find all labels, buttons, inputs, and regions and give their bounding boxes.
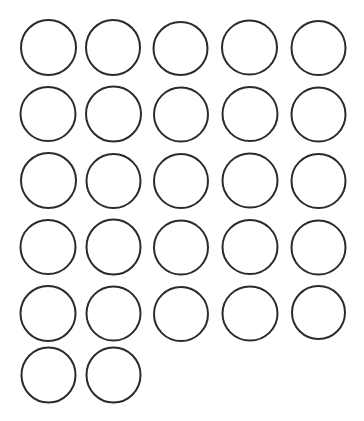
circle-r2-c4[interactable] bbox=[223, 87, 278, 141]
circle-r1-c4[interactable] bbox=[222, 21, 277, 75]
circle-r1-c5[interactable] bbox=[292, 21, 346, 75]
circle-r5-c2[interactable] bbox=[87, 287, 141, 341]
circle-layer bbox=[21, 20, 346, 403]
circle-r4-c5[interactable] bbox=[292, 221, 346, 275]
circle-r3-c3[interactable] bbox=[154, 154, 208, 208]
circle-grid-canvas bbox=[0, 0, 364, 421]
circle-r6-c2[interactable] bbox=[87, 348, 141, 403]
circle-r5-c1[interactable] bbox=[21, 286, 76, 341]
circle-r5-c5[interactable] bbox=[292, 286, 345, 339]
circle-r4-c3[interactable] bbox=[154, 221, 208, 275]
circle-r2-c1[interactable] bbox=[21, 87, 76, 141]
circle-r4-c1[interactable] bbox=[21, 220, 76, 274]
circle-r4-c4[interactable] bbox=[223, 220, 278, 274]
circle-r3-c4[interactable] bbox=[223, 154, 278, 208]
circle-r5-c4[interactable] bbox=[223, 287, 278, 341]
circle-r4-c2[interactable] bbox=[87, 220, 141, 275]
circle-grid-svg bbox=[0, 0, 364, 421]
circle-r3-c5[interactable] bbox=[292, 154, 346, 208]
circle-r6-c1[interactable] bbox=[22, 348, 76, 403]
circle-r1-c1[interactable] bbox=[21, 20, 76, 75]
circle-r1-c2[interactable] bbox=[86, 20, 140, 75]
circle-r2-c3[interactable] bbox=[154, 88, 208, 142]
circle-r2-c5[interactable] bbox=[292, 88, 346, 142]
circle-r3-c2[interactable] bbox=[87, 154, 141, 208]
circle-r5-c3[interactable] bbox=[154, 287, 208, 341]
circle-r3-c1[interactable] bbox=[21, 153, 76, 208]
circle-r2-c2[interactable] bbox=[86, 87, 141, 142]
circle-r1-c3[interactable] bbox=[154, 22, 208, 75]
